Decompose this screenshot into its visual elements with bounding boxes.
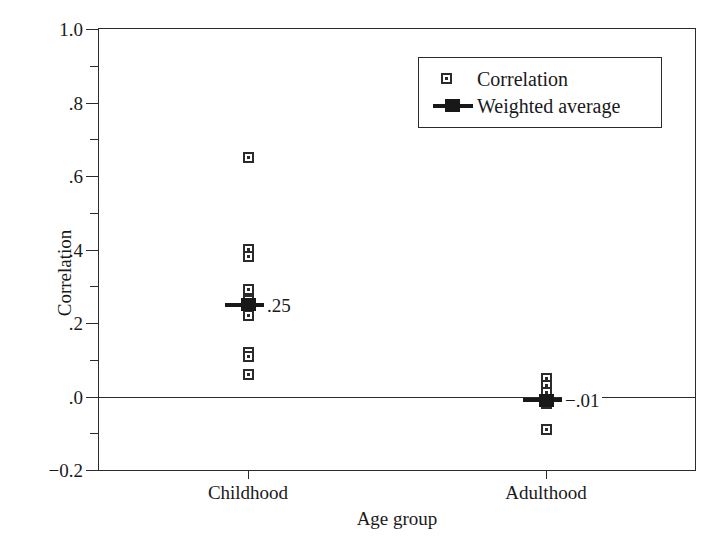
correlation-scatter-figure: Correlation Age group 1.0.8.6.4.2.0−0.2 … xyxy=(0,0,725,546)
y-tick-major xyxy=(86,176,99,177)
weighted-average-label: −.01 xyxy=(562,391,602,410)
x-axis-title: Age group xyxy=(98,508,696,530)
data-point xyxy=(243,351,254,362)
x-tick-label-adulthood: Adulthood xyxy=(505,483,586,502)
y-tick-label: .4 xyxy=(69,240,83,259)
y-tick-minor xyxy=(90,213,99,214)
data-point xyxy=(243,251,254,262)
y-tick-label: .8 xyxy=(69,93,83,112)
y-tick-major xyxy=(86,323,99,324)
x-tick xyxy=(546,470,547,479)
data-point xyxy=(541,424,552,435)
y-tick-major xyxy=(86,250,99,251)
y-tick-minor xyxy=(90,433,99,434)
x-tick-label-childhood: Childhood xyxy=(208,483,288,502)
y-tick-major xyxy=(86,470,99,471)
y-tick-major xyxy=(86,103,99,104)
y-tick-minor xyxy=(90,139,99,140)
weighted-average-marker xyxy=(539,394,554,407)
y-tick-label: .6 xyxy=(69,167,83,186)
legend-item-weighted-average: Weighted average xyxy=(431,92,649,119)
y-tick-label: .0 xyxy=(69,387,83,406)
y-tick-label: −0.2 xyxy=(49,461,83,480)
data-point xyxy=(243,152,254,163)
legend-label-weighted-average: Weighted average xyxy=(477,96,620,116)
legend-item-correlation: Correlation xyxy=(431,65,649,92)
filled-square-whisker-icon xyxy=(431,96,477,116)
y-tick-minor xyxy=(90,286,99,287)
y-tick-major xyxy=(86,397,99,398)
open-square-icon xyxy=(431,69,477,89)
legend: Correlation Weighted average xyxy=(418,57,662,128)
x-tick xyxy=(248,470,249,479)
data-point xyxy=(243,310,254,321)
y-tick-label: 1.0 xyxy=(59,20,83,39)
y-tick-label: .2 xyxy=(69,314,83,333)
y-tick-major xyxy=(86,29,99,30)
y-tick-minor xyxy=(90,360,99,361)
weighted-average-marker xyxy=(241,298,256,311)
y-tick-minor xyxy=(90,66,99,67)
data-point xyxy=(243,369,254,380)
zero-reference-line xyxy=(99,397,695,398)
weighted-average-label: .25 xyxy=(264,295,294,314)
data-point xyxy=(243,284,254,295)
legend-label-correlation: Correlation xyxy=(477,69,568,89)
